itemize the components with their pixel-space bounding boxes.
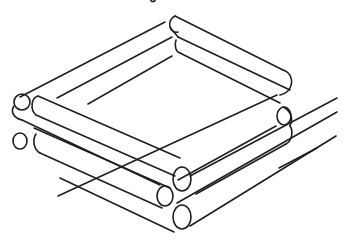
- back-corner: [20, 16, 290, 104]
- top-mark: [151, 0, 155, 2]
- log-frame-drawing: Hand-drawn line sketch of a square frame…: [0, 0, 354, 245]
- log-frame-sketch: [0, 0, 354, 245]
- front-corner: [60, 98, 337, 232]
- image-description: Hand-drawn line sketch of a square frame…: [0, 0, 1, 1]
